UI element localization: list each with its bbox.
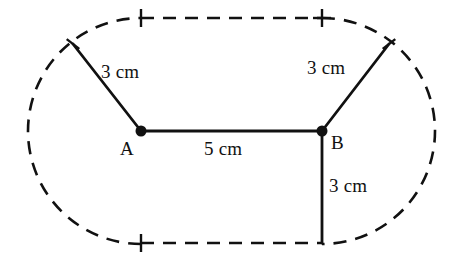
vertex-dot-b <box>317 126 328 137</box>
label-point-A: A <box>120 139 134 158</box>
segment-A-upper-left <box>73 44 141 131</box>
label-segment-A-upper-left: 3 cm <box>101 62 139 81</box>
label-segment-AB: 5 cm <box>204 139 242 158</box>
geometry-diagram: 3 cm 5 cm 3 cm 3 cm A B <box>0 0 453 265</box>
label-segment-B-down: 3 cm <box>329 176 367 195</box>
dashed-right-arc <box>322 18 435 244</box>
vertex-dot-a <box>136 126 147 137</box>
dashed-left-arc <box>28 18 141 244</box>
figure-canvas <box>0 0 453 265</box>
label-point-B: B <box>331 133 344 152</box>
label-segment-B-upper-right: 3 cm <box>307 58 345 77</box>
